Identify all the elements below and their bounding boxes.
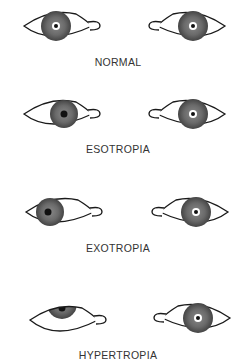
left-eye-exotropia (22, 192, 106, 232)
label-exotropia: EXOTROPIA (0, 242, 236, 254)
label-esotropia: ESOTROPIA (0, 143, 236, 155)
label-normal: NORMAL (0, 56, 236, 68)
left-eye-normal (20, 6, 104, 46)
left-eye-esotropia (20, 94, 104, 134)
label-hypertropia: HYPERTROPIA (0, 349, 236, 361)
right-eye-esotropia (145, 94, 229, 134)
left-eye-vertical-deviation (26, 298, 110, 342)
right-eye-exotropia (148, 192, 232, 232)
right-eye-normal (145, 6, 229, 46)
right-eye-vertical-deviation (150, 296, 234, 340)
